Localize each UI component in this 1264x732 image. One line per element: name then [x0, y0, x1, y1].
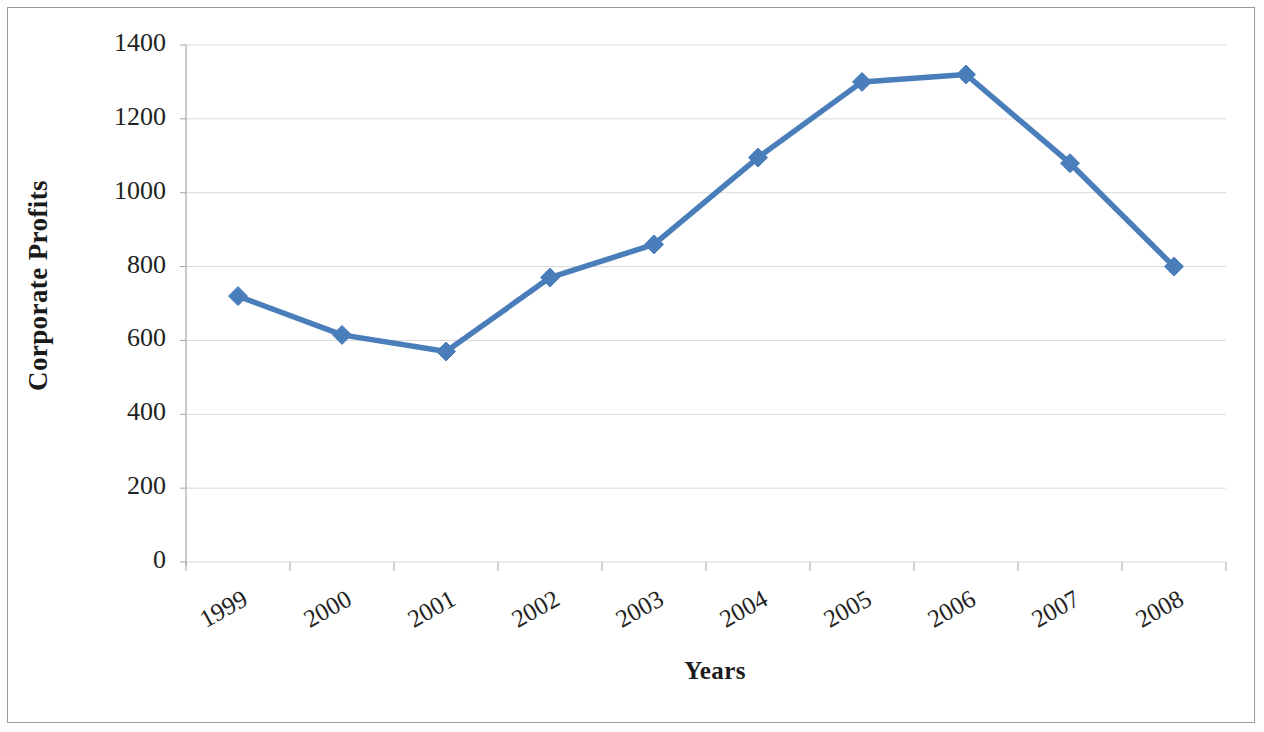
line-chart-plot [0, 0, 1264, 732]
chart-figure: Corporate Profits Years 1400120010008006… [0, 0, 1264, 732]
x-axis-tick-marks [186, 562, 1226, 571]
data-series-markers [229, 65, 1184, 361]
data-series-line [238, 75, 1174, 352]
y-axis-tick-marks [180, 45, 186, 562]
gridlines [186, 45, 1226, 562]
